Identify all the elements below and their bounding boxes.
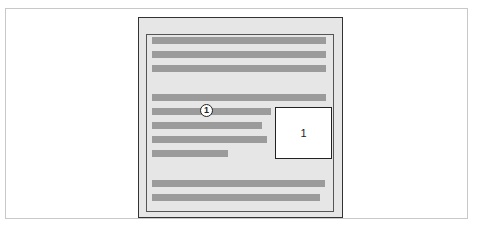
text-line	[152, 51, 326, 58]
text-line	[152, 150, 228, 157]
anchor-marker-icon: 1	[200, 104, 213, 117]
floating-box-label: 1	[300, 127, 306, 139]
text-line	[152, 136, 267, 143]
text-line	[152, 180, 325, 187]
text-line	[152, 65, 326, 72]
anchor-marker-label: 1	[204, 105, 209, 115]
floating-box: 1	[275, 107, 332, 159]
text-line	[152, 194, 320, 201]
text-line	[152, 94, 326, 101]
text-line	[152, 122, 262, 129]
text-line	[152, 37, 326, 44]
